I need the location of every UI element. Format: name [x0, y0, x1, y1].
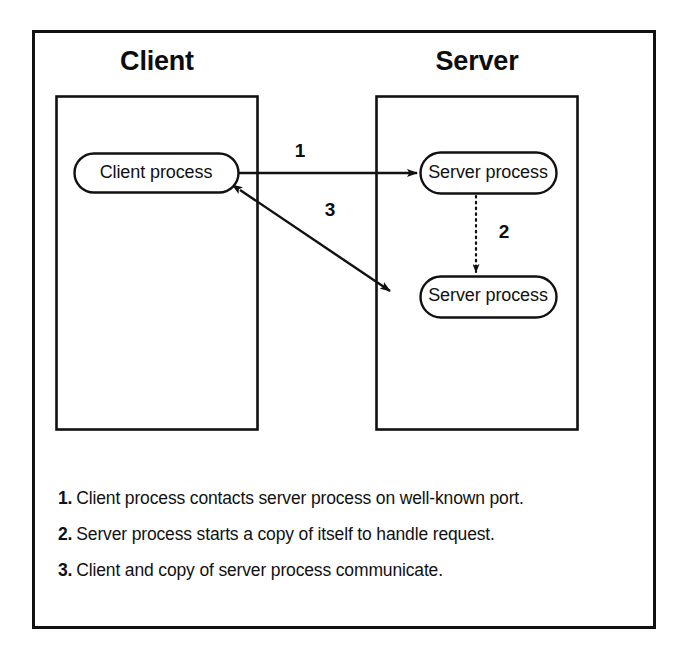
zone-title-client: Client — [56, 46, 258, 77]
arrow-1-number: 1 — [286, 140, 314, 162]
server-process-2-label: Server process — [420, 285, 556, 306]
caption-list: 1.Client process contacts server process… — [58, 480, 638, 588]
caption-item: 1.Client process contacts server process… — [58, 480, 638, 516]
caption-item-text: Client and copy of server process commun… — [76, 560, 443, 580]
caption-item-text: Server process starts a copy of itself t… — [76, 524, 494, 544]
server-process-1-label: Server process — [420, 162, 556, 183]
arrow-3-number: 3 — [316, 199, 344, 221]
caption-item-number: 2. — [58, 524, 72, 544]
caption-item: 2.Server process starts a copy of itself… — [58, 516, 638, 552]
caption-item: 3.Client and copy of server process comm… — [58, 552, 638, 588]
caption-item-text: Client process contacts server process o… — [76, 488, 523, 508]
arrow-2-number: 2 — [490, 221, 518, 243]
zone-title-server: Server — [376, 46, 578, 77]
client-process-label: Client process — [74, 162, 238, 183]
caption-item-number: 1. — [58, 488, 72, 508]
caption-item-number: 3. — [58, 560, 72, 580]
figure-root: Client Server Client process Server proc… — [0, 0, 677, 649]
